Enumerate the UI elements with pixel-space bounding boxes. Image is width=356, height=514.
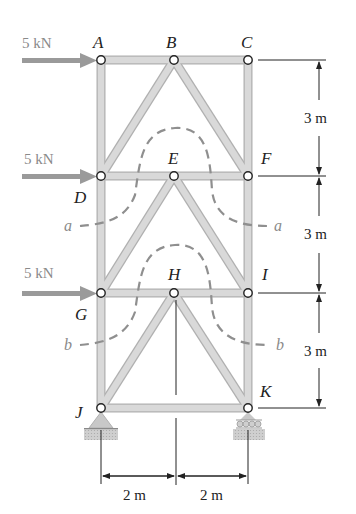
node-label-K: K (260, 383, 271, 400)
joint-A (97, 56, 105, 64)
load-label-G: 5 kN (24, 266, 54, 281)
joint-I (244, 289, 252, 297)
load-label-D: 5 kN (24, 152, 54, 167)
truss-diagram (0, 0, 356, 514)
joint-F (244, 172, 252, 180)
node-label-G: G (75, 306, 87, 323)
dimension-horizontal-2: 2 m (200, 487, 223, 504)
section-a-right-label: a (274, 218, 282, 234)
joint-D (97, 172, 105, 180)
joint-B (170, 56, 178, 64)
truss-members (101, 60, 248, 408)
node-label-J: J (75, 404, 83, 421)
load-arrow-G (22, 286, 97, 301)
dimension-vertical-3: 3 m (304, 343, 327, 360)
node-label-A: A (93, 34, 103, 51)
node-label-H: H (168, 266, 180, 283)
joint-K (244, 404, 252, 412)
node-label-E: E (168, 150, 178, 167)
dimension-horizontal-1: 2 m (123, 487, 146, 504)
load-arrow-A (22, 53, 97, 68)
joint-H (170, 289, 178, 297)
section-a-left-label: a (64, 218, 72, 234)
load-label-A: 5 kN (22, 36, 52, 51)
horizontal-dimension (101, 430, 248, 484)
joint-C (244, 56, 252, 64)
joint-G (97, 289, 105, 297)
node-label-C: C (241, 34, 252, 51)
dimension-vertical-1: 3 m (304, 110, 327, 127)
section-b-right-label: b (276, 337, 284, 353)
roller-support-K (233, 412, 265, 440)
dimension-vertical-2: 3 m (304, 226, 327, 243)
joint-E (170, 172, 178, 180)
node-label-D: D (74, 189, 86, 206)
node-label-F: F (261, 150, 271, 167)
section-b-left-label: b (64, 337, 72, 353)
joint-J (97, 404, 105, 412)
load-arrow-D (22, 169, 97, 184)
truss-joints (97, 56, 252, 412)
node-label-B: B (166, 34, 176, 51)
node-label-I: I (262, 266, 268, 283)
